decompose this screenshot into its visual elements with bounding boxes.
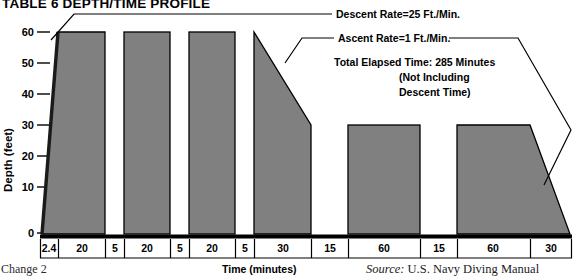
ascent-rate-label: Ascent Rate=1 Ft./Min.: [338, 32, 450, 44]
y-tick-label: 40: [22, 88, 34, 100]
y-tick-label: 30: [22, 119, 34, 131]
footer-source-value: U.S. Navy Diving Manual: [408, 262, 540, 276]
annotation-texts: Descent Rate=25 Ft./Min. Ascent Rate=1 F…: [334, 8, 495, 98]
y-tick-label: 0: [28, 227, 34, 239]
x-segment-label: 15: [433, 242, 445, 254]
segment-bottom-2: [124, 32, 170, 234]
y-tick-20: 20: [22, 150, 50, 162]
ascent-leader: [285, 38, 334, 63]
x-segment-label: 20: [76, 242, 88, 254]
total-time-note-2: Descent Time): [399, 86, 471, 98]
y-tick-60: 60: [22, 26, 50, 38]
x-segment-label: 2.4: [42, 242, 57, 254]
y-tick-label: 20: [22, 150, 34, 162]
segment-stop-1: [348, 125, 420, 234]
total-time-note-1: (Not Including: [399, 71, 470, 83]
segment-stop-2-and-ascent: [457, 125, 570, 234]
x-segment-label: 5: [177, 242, 183, 254]
y-tick-label: 10: [22, 181, 34, 193]
x-segment-label: 60: [378, 242, 390, 254]
x-segment-label: 5: [242, 242, 248, 254]
total-time-label: Total Elapsed Time: 285 Minutes: [334, 56, 495, 68]
footer-change-label: Change 2: [1, 262, 47, 277]
y-tick-label: 50: [22, 57, 34, 69]
y-tick-50: 50: [22, 57, 50, 69]
footer-source: Source: U.S. Navy Diving Manual: [366, 262, 539, 277]
x-segment-label: 5: [112, 242, 118, 254]
x-segment-label: 20: [141, 242, 153, 254]
y-tick-label: 60: [22, 26, 34, 38]
depth-time-profile-figure: TABLE 6 DEPTH/TIME PROFILE 60 50 40 30 2…: [0, 0, 577, 280]
x-segment-label: 20: [206, 242, 218, 254]
x-axis: 2.4 20 5 20 5 20 5 30 15 60 15 60 30: [40, 237, 572, 259]
x-segment-label: 15: [324, 242, 336, 254]
footer-source-label: Source:: [366, 262, 404, 276]
y-axis-label: Depth (feet): [2, 128, 14, 192]
x-segment-label: 30: [277, 242, 289, 254]
x-segment-label: 30: [545, 242, 557, 254]
x-axis-label: Time (minutes): [222, 263, 296, 275]
x-segment-label: 60: [487, 242, 499, 254]
y-tick-40: 40: [22, 88, 50, 100]
segment-ascent-1: [254, 32, 311, 234]
profile-chart: 60 50 40 30 20 10: [0, 0, 577, 280]
descent-rate-label: Descent Rate=25 Ft./Min.: [336, 8, 460, 20]
x-segment-labels: 2.4 20 5 20 5 20 5 30 15 60 15 60 30: [42, 242, 557, 254]
segment-bottom-3: [189, 32, 235, 234]
y-tick-30: 30: [22, 119, 50, 131]
